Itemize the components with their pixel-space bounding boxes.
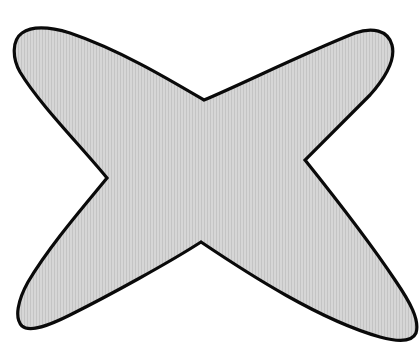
star-shape-icon: [14, 28, 417, 340]
figure-canvas: Four-pointed star shape with concave sid…: [0, 0, 420, 350]
star-shape-graphic: [0, 0, 420, 350]
